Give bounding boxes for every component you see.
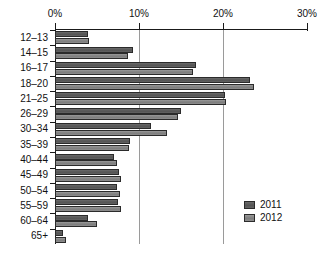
legend-label-2011: 2011 [260, 199, 282, 210]
bar-2011-16–17 [55, 62, 196, 68]
bar-2011-65+ [55, 230, 63, 236]
bar-2012-26–29 [55, 114, 178, 120]
y-axis-category-label: 40–44 [20, 154, 48, 165]
bar-2011-18–20 [55, 77, 250, 83]
y-axis-category-label: 14–15 [20, 47, 48, 58]
legend: 2011 2012 [244, 198, 304, 224]
bar-2011-26–29 [55, 108, 181, 114]
y-axis-category-label: 50–54 [20, 185, 48, 196]
y-axis-category-label: 26–29 [20, 108, 48, 119]
x-axis-tick-label: 20% [213, 8, 233, 19]
legend-label-2012: 2012 [260, 212, 282, 223]
bar-2012-55–59 [55, 206, 121, 212]
bar-2012-18–20 [55, 84, 254, 90]
bar-2012-16–17 [55, 69, 193, 75]
legend-item-2012: 2012 [244, 211, 304, 224]
bar-chart: 0%10%20%30% 12–1314–1516–1718–2021–2526–… [0, 0, 330, 259]
y-axis-category-label: 16–17 [20, 62, 48, 73]
bar-2012-12–13 [55, 38, 89, 44]
bar-2011-12–13 [55, 31, 88, 37]
legend-item-2011: 2011 [244, 198, 304, 211]
legend-swatch-2012-icon [244, 214, 255, 222]
bar-2012-60–64 [55, 221, 97, 227]
bar-2011-55–59 [55, 199, 118, 205]
bar-2012-14–15 [55, 53, 128, 59]
bar-2012-21–25 [55, 99, 226, 105]
bar-2012-40–44 [55, 160, 117, 166]
y-axis-category-label: 21–25 [20, 93, 48, 104]
y-axis-category-label: 30–34 [20, 123, 48, 134]
y-axis-category-label: 18–20 [20, 78, 48, 89]
bar-2011-50–54 [55, 184, 117, 190]
bar-2011-35–39 [55, 138, 130, 144]
legend-swatch-2011-icon [244, 201, 255, 209]
bar-2011-60–64 [55, 215, 88, 221]
bar-2011-45–49 [55, 169, 119, 175]
bar-2012-50–54 [55, 191, 120, 197]
gridline [307, 23, 308, 31]
x-axis-tick-label: 0% [48, 8, 62, 19]
bar-2011-40–44 [55, 154, 114, 160]
x-axis-tick-label: 30% [297, 8, 317, 19]
y-axis-category-label: 55–59 [20, 200, 48, 211]
bar-2012-35–39 [55, 145, 129, 151]
y-axis-category-label: 45–49 [20, 169, 48, 180]
bar-2011-30–34 [55, 123, 151, 129]
bar-2011-14–15 [55, 47, 133, 53]
bar-2012-45–49 [55, 176, 121, 182]
bar-2011-21–25 [55, 92, 225, 98]
bar-2012-30–34 [55, 130, 167, 136]
y-axis-category-labels: 12–1314–1516–1718–2021–2526–2930–3435–39… [0, 30, 48, 244]
y-axis-category-label: 35–39 [20, 139, 48, 150]
y-axis-category-label: 60–64 [20, 215, 48, 226]
x-axis-tick-label: 10% [129, 8, 149, 19]
y-axis-category-label: 65+ [31, 230, 48, 241]
y-axis-category-label: 12–13 [20, 32, 48, 43]
bar-2012-65+ [55, 237, 66, 243]
